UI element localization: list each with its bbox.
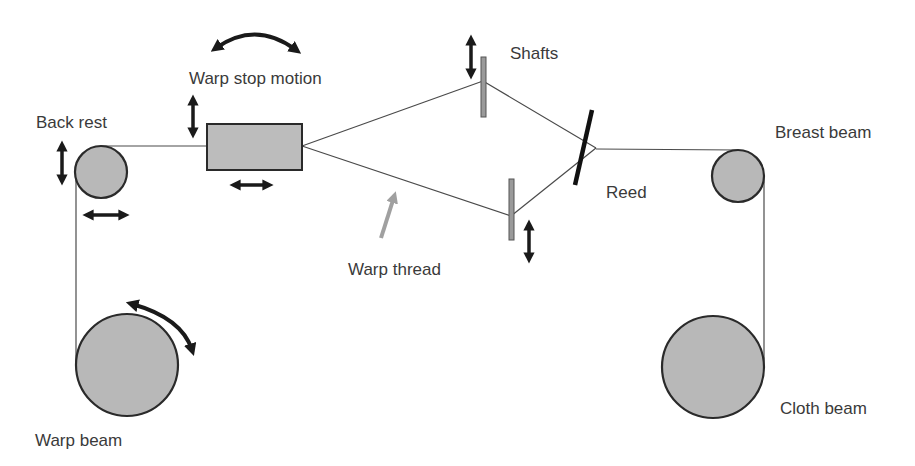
warp-thread-pointer-icon bbox=[381, 197, 394, 238]
warp-stop-motion-box bbox=[207, 124, 302, 170]
back-rest-roller bbox=[75, 146, 127, 198]
shafts-label: Shafts bbox=[510, 44, 558, 63]
warp-thread-label: Warp thread bbox=[348, 260, 441, 279]
warp-beam-roller bbox=[76, 314, 178, 416]
lower-shaft bbox=[509, 179, 514, 240]
breast-beam-roller bbox=[712, 150, 764, 202]
upper-shaft bbox=[481, 57, 486, 117]
reed-label: Reed bbox=[606, 183, 647, 202]
warp-thread-path bbox=[76, 81, 764, 367]
warp-stop-rocking-arrow-icon bbox=[216, 34, 296, 50]
warp-stop-motion-label: Warp stop motion bbox=[189, 69, 322, 88]
reed-bar bbox=[575, 110, 592, 185]
loom-diagram: Back rest Warp stop motion Shafts Reed B… bbox=[0, 0, 915, 466]
cloth-beam-label: Cloth beam bbox=[780, 399, 867, 418]
warp-beam-label: Warp beam bbox=[35, 431, 122, 450]
back-rest-label: Back rest bbox=[36, 113, 107, 132]
cloth-beam-roller bbox=[662, 316, 764, 418]
breast-beam-label: Breast beam bbox=[775, 123, 871, 142]
